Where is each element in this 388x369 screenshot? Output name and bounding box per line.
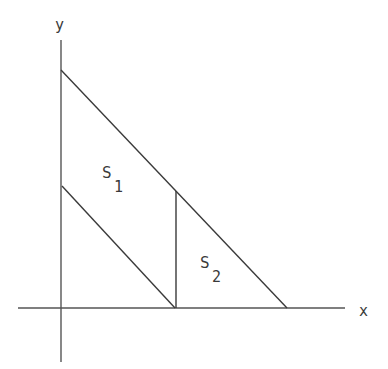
region-s2-label: S 2 [200,253,221,286]
region-s1-subscript: 1 [114,178,123,196]
x-axis-label: x [359,302,368,320]
region-s2-subscript: 2 [212,268,221,286]
diagram-canvas: y x S 1 S 2 [0,0,388,369]
upper-diagonal-line [61,70,287,308]
region-s1-label: S 1 [102,163,123,196]
y-axis-label: y [55,16,64,34]
lower-diagonal-line [62,186,175,308]
region-s2-name: S [200,253,210,272]
region-s1-name: S [102,163,112,182]
